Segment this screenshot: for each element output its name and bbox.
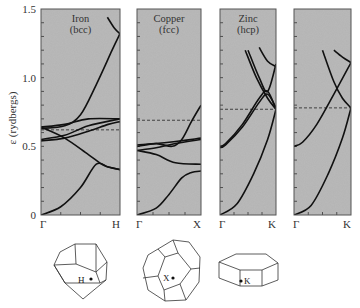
brillouin-zone-hcp: K [219, 254, 278, 286]
panel-title: Zinc [238, 13, 258, 24]
band-panel-3: Zinc(hcp)ΓK [219, 9, 276, 230]
bz-label-X: X [163, 273, 170, 283]
k-label-end: K [268, 218, 276, 230]
point-K-marker [239, 279, 242, 282]
y-tick-0: 0 [31, 209, 37, 221]
band-panel-1: Iron(bcc)ΓH [40, 9, 120, 230]
bz-label-H: H [78, 275, 85, 285]
panel-title: Iron [72, 13, 90, 24]
k-label-gamma: Γ [293, 218, 299, 230]
y-tick-1.0: 1.0 [22, 72, 36, 84]
panel-title: Copper [154, 13, 185, 24]
band-panel-2: Copper(fcc)ΓX [136, 9, 201, 230]
band-panel-4: ΓK [293, 9, 351, 230]
y-axis: 1.5 1.0 0.5 0 ε (rydbergs) [6, 3, 37, 221]
k-label-gamma: Γ [136, 218, 142, 230]
y-tick-0.5: 0.5 [22, 140, 36, 152]
y-tick-1.5: 1.5 [22, 3, 36, 15]
band-structure-figure: 1.5 1.0 0.5 0 ε (rydbergs) Iron(bcc)ΓHCo… [0, 0, 360, 308]
k-label-gamma: Γ [40, 218, 46, 230]
bz-label-K: K [244, 276, 251, 286]
k-label-end: X [193, 218, 201, 230]
k-label-end: H [112, 218, 120, 230]
y-axis-title: ε (rydbergs) [6, 91, 19, 144]
k-label-gamma: Γ [219, 218, 225, 230]
panel-subtitle: (hcp) [237, 24, 260, 36]
panel-subtitle: (bcc) [70, 24, 92, 36]
k-label-end: K [343, 218, 351, 230]
brillouin-zone-bcc: H [54, 244, 107, 299]
point-H-marker [89, 277, 92, 280]
point-X-marker [171, 276, 174, 279]
brillouin-zone-fcc: X [143, 240, 200, 301]
panel-subtitle: (fcc) [159, 24, 179, 36]
